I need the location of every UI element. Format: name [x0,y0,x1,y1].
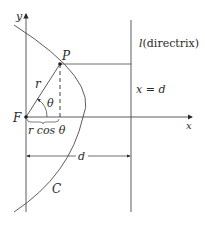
focus-f-label: F [12,111,22,125]
curve-c [14,25,86,212]
distance-d-label: d [78,150,85,163]
focus-f-dot [24,115,28,119]
angle-arc [38,99,48,117]
radius-line [26,64,60,117]
directrix-equation: x = d [136,83,165,96]
projection-label: r cos θ [28,124,66,137]
y-axis-label: y [15,10,23,23]
curve-c-label: C [52,182,61,196]
angle-label: θ [47,97,54,110]
directrix-label: l(directrix) [139,37,199,50]
point-p-label: P [61,49,71,63]
x-axis-label: x [186,120,192,131]
radius-label: r [35,77,42,91]
diagram-canvas: y x P F r θ r cos θ l(directrix) x = d d… [0,0,205,228]
